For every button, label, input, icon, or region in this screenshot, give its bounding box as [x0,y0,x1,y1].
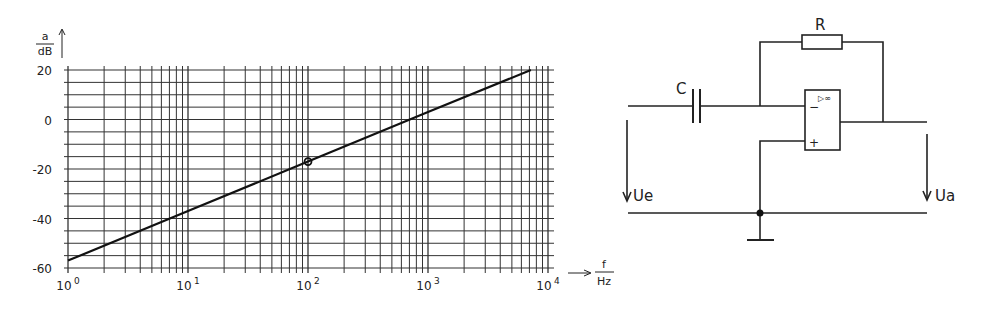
resistor-icon [802,35,842,49]
gain-line [68,70,531,261]
opamp-symbol: ▷∞ [818,94,831,103]
opamp-minus-label: − [809,100,819,114]
output-voltage-label: Ua [935,187,955,205]
input-voltage-label: Ue [633,187,653,205]
x-tick-label: 10 [56,279,71,293]
y-label-numerator: a [42,30,49,43]
x-tick-label: 10 [176,279,191,293]
x-tick-exponent: 4 [554,276,560,286]
noninverting-input-wire [760,141,805,213]
x-tick-exponent: 0 [74,276,80,286]
chart-grid [64,66,554,273]
y-label-denominator: dB [38,45,53,58]
junction-dot [757,210,764,217]
capacitor-icon [693,89,700,123]
input-voltage-arrow-icon [623,120,631,201]
opamp-plus-label: + [809,136,819,150]
y-tick-label: 20 [37,64,52,78]
x-tick-label: 10 [416,279,431,293]
y-tick-label: 0 [44,114,52,128]
y-tick-label: -40 [32,213,52,227]
capacitor-label: C [676,80,686,98]
x-axis-arrow-icon [568,270,591,276]
x-tick-exponent: 3 [434,276,440,286]
y-tick-label: -20 [32,163,52,177]
x-tick-label: 10 [536,279,551,293]
feedback-wire-left [760,42,802,106]
y-axis-label: a dB [36,29,65,58]
y-axis-ticks: 200-20-40-60 [32,64,52,276]
y-tick-label: -60 [32,262,52,276]
y-axis-arrow-icon [59,29,65,58]
x-axis-ticks: 100101102103104 [56,276,560,293]
output-voltage-arrow-icon [923,134,931,200]
x-tick-exponent: 1 [194,276,200,286]
x-tick-label: 10 [296,279,311,293]
resistor-label: R [815,16,825,34]
differentiator-circuit-diagram: C R ▷∞ − + Ue Ua [600,0,982,309]
feedback-wire-right [842,42,883,122]
bode-magnitude-chart: 200-20-40-60 100101102103104 a dB f Hz [0,0,620,309]
x-tick-exponent: 2 [314,276,320,286]
